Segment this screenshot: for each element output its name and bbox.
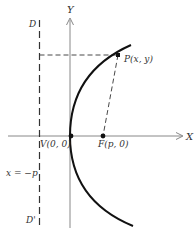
- focus-point: [101, 134, 106, 139]
- point-to-focus-dashed-line: [103, 55, 118, 136]
- vertex-point: [69, 134, 74, 139]
- vertex-label: V(0, 0): [40, 139, 71, 149]
- directrix-bottom-label: D': [25, 215, 36, 225]
- parabola-diagram: Y X D D' x = −p V(0, 0) F(p, 0) P(x, y): [0, 0, 196, 239]
- point-p-label: P(x, y): [123, 54, 153, 64]
- directrix-equation-label: x = −p: [6, 168, 38, 178]
- point-p-marker: [116, 53, 120, 57]
- focus-label: F(p, 0): [97, 139, 129, 149]
- x-axis-label: X: [185, 131, 194, 142]
- y-axis-label: Y: [67, 4, 75, 15]
- directrix-top-label: D: [28, 19, 36, 29]
